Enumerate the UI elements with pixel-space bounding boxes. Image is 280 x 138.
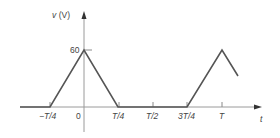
x-tick-label-half: T/2 (146, 112, 158, 121)
x-axis-arrow-icon (254, 105, 262, 110)
y-peak-label: 60 (70, 46, 79, 55)
x-axis-label: t (260, 115, 262, 124)
x-tick-label-zero: 0 (76, 112, 81, 121)
x-tick-label-three-quarter: 3T/4 (178, 112, 195, 121)
y-axis-label: v (V) (52, 11, 70, 20)
x-tick-label-quarter: T/4 (112, 112, 124, 121)
x-tick-label-full: T (219, 112, 224, 121)
waveform-line (20, 50, 238, 107)
x-tick-label-neg-quarter: −T/4 (39, 112, 56, 121)
y-axis-arrow-icon (82, 11, 87, 19)
